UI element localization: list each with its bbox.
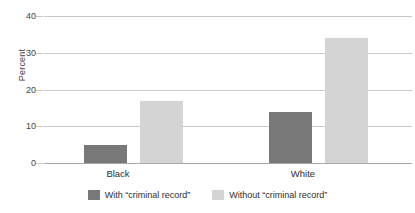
x-axis-label-white: White: [263, 168, 343, 179]
tick-mark-10: [36, 126, 43, 127]
tick-mark-0: [36, 163, 43, 164]
gridline-0: [44, 163, 412, 164]
bar-black-with-record: [84, 145, 127, 163]
bar-black-without-record: [140, 101, 183, 164]
y-axis-tick-labels: 40 30 20 10 0: [0, 16, 36, 163]
legend-swatch-icon-dark: [88, 190, 100, 200]
bar-white-with-record: [269, 112, 312, 163]
chart-legend: With “criminal record” Without “criminal…: [0, 190, 415, 200]
plot-area: [44, 16, 412, 163]
legend-label-with-record: With “criminal record”: [105, 191, 191, 200]
legend-item-with-record: With “criminal record”: [88, 190, 191, 200]
legend-swatch-icon-light: [212, 190, 224, 200]
tick-mark-30: [36, 53, 43, 54]
x-axis-label-black: Black: [78, 168, 158, 179]
legend-label-without-record: Without “criminal record”: [229, 191, 327, 200]
gridline-40: [44, 16, 412, 17]
legend-item-without-record: Without “criminal record”: [212, 190, 327, 200]
y-tick-label-10: 10: [6, 122, 36, 131]
y-tick-label-40: 40: [6, 12, 36, 21]
y-tick-label-0: 0: [6, 159, 36, 168]
tick-mark-40: [36, 16, 43, 17]
y-tick-label-20: 20: [6, 85, 36, 94]
bar-white-without-record: [325, 38, 368, 163]
tick-mark-20: [36, 90, 43, 91]
y-tick-label-30: 30: [6, 48, 36, 57]
bar-chart: Percent 40 30 20 10 0 Black White With “…: [0, 0, 415, 213]
